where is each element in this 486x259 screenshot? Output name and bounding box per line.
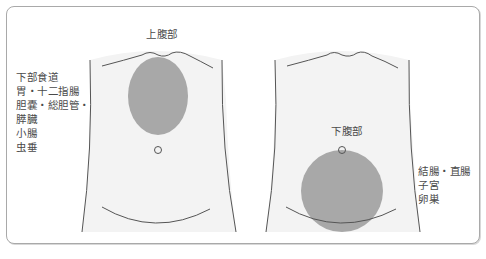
organ-item: 膵臓	[16, 112, 90, 126]
upper-organ-list: 下部食道 胃・十二指腸 胆嚢・総胆管・ 膵臓 小腸 虫垂	[16, 70, 90, 154]
upper-abdomen-label: 上腹部	[146, 27, 178, 41]
organ-item: 下部食道	[16, 70, 90, 84]
lower-organ-list: 結腸・直腸 子宮 卵巣	[418, 164, 471, 206]
upper-abdomen-highlight	[128, 57, 188, 135]
lower-abdomen-highlight	[301, 150, 383, 232]
organ-item: 子宮	[418, 178, 471, 192]
organ-item: 小腸	[16, 126, 90, 140]
organ-item: 胆嚢・総胆管・	[16, 98, 90, 112]
organ-item: 虫垂	[16, 140, 90, 154]
organ-item: 卵巣	[418, 192, 471, 206]
right-torso	[266, 51, 420, 232]
organ-item: 結腸・直腸	[418, 164, 471, 178]
organ-item: 胃・十二指腸	[16, 84, 90, 98]
lower-abdomen-label: 下腹部	[331, 124, 363, 138]
left-torso	[82, 51, 236, 232]
